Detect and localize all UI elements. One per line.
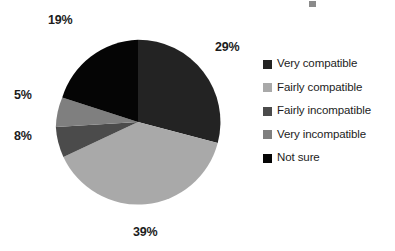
pie-chart-figure: 19% 29% 39% 5% 8% Very compatible Fairly… [0, 0, 395, 251]
legend-item-not-sure[interactable]: Not sure [263, 151, 395, 165]
data-label-very-compatible: 29% [215, 41, 239, 54]
data-label-fairly-compatible: 39% [133, 226, 157, 239]
legend-item-label: Not sure [277, 152, 320, 164]
square-swatch-icon [263, 154, 272, 163]
legend-item-fairly-compatible[interactable]: Fairly compatible [263, 81, 395, 95]
square-swatch-icon [263, 130, 272, 139]
chart-legend: Very compatible Fairly compatible Fairly… [263, 57, 395, 165]
legend-item-very-compatible[interactable]: Very compatible [263, 57, 395, 71]
pie-svg [54, 38, 222, 206]
legend-item-label: Fairly compatible [277, 82, 362, 94]
data-label-fairly-incompatible: 8% [14, 130, 32, 143]
legend-item-fairly-incompatible[interactable]: Fairly incompatible [263, 104, 395, 118]
legend-item-very-incompatible[interactable]: Very incompatible [263, 128, 395, 142]
scan-artifact [309, 1, 316, 7]
square-swatch-icon [263, 60, 272, 69]
square-swatch-icon [263, 83, 272, 92]
pie-plot-area: 19% 29% 39% 5% 8% [0, 0, 260, 251]
data-label-not-sure: 19% [48, 14, 72, 27]
square-swatch-icon [263, 107, 272, 116]
pie-slices [56, 40, 221, 205]
legend-item-label: Very compatible [277, 58, 357, 70]
legend-item-label: Very incompatible [277, 129, 366, 141]
data-label-very-incompatible: 5% [14, 89, 32, 102]
legend-item-label: Fairly incompatible [277, 105, 371, 117]
